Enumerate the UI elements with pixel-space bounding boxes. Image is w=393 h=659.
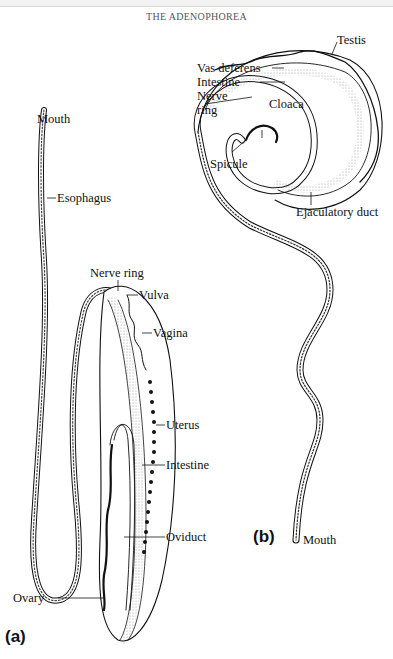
label-nerve-ring-b-line1: Nerve <box>197 89 228 103</box>
label-vulva: Vulva <box>139 288 169 302</box>
label-intestine-b: Intestine <box>197 75 240 89</box>
label-ejaculatory-duct: Ejaculatory duct <box>296 205 378 219</box>
label-mouth-a: Mouth <box>37 112 70 126</box>
panel-label-b: (b) <box>253 527 275 547</box>
male-worm-drawing <box>197 51 382 540</box>
label-vas-deferens: Vas deferens <box>197 61 261 75</box>
label-cloaca: Cloaca <box>269 97 304 111</box>
label-spicule: Spicule <box>210 157 248 171</box>
panel-label-a: (a) <box>5 627 26 647</box>
label-oviduct: Oviduct <box>166 530 206 544</box>
label-nerve-ring-a: Nerve ring <box>90 266 144 280</box>
label-vagina: Vagina <box>153 326 188 340</box>
label-esophagus: Esophagus <box>57 191 111 205</box>
label-testis: Testis <box>337 33 366 47</box>
label-intestine-a: Intestine <box>166 458 209 472</box>
female-worm-drawing <box>33 110 175 641</box>
label-mouth-b: Mouth <box>303 533 336 547</box>
label-uterus: Uterus <box>166 418 199 432</box>
label-nerve-ring-b-line2: ring <box>197 103 217 117</box>
label-ovary: Ovary <box>13 591 44 605</box>
